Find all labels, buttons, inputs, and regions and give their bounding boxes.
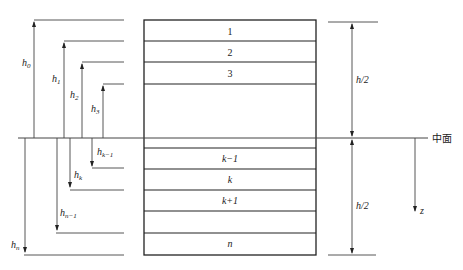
label-h1: h1 — [52, 73, 61, 86]
upper-height-dimensions — [34, 20, 124, 138]
z-axis-label: z — [419, 205, 424, 216]
label-h-k: hk — [74, 169, 83, 182]
label-h3: h3 — [91, 103, 100, 116]
label-h0: h0 — [22, 57, 31, 70]
layer-label-1: 1 — [228, 26, 233, 37]
label-h-k-minus-1: hk−1 — [97, 146, 113, 159]
layer-label-2: 2 — [228, 47, 233, 58]
laminate-diagram: 1 2 3 k−1 k k+1 n 中面 h0 h1 h2 — [0, 0, 463, 270]
layer-label-3: 3 — [228, 68, 233, 79]
layer-label-k: k — [228, 174, 233, 185]
layer-label-n: n — [228, 238, 233, 249]
label-half-thickness-top: h/2 — [356, 74, 369, 85]
layer-label-k-minus-1: k−1 — [222, 153, 238, 164]
label-h2: h2 — [70, 89, 79, 102]
layer-label-k-plus-1: k+1 — [222, 195, 238, 206]
midplane-label: 中面 — [432, 132, 452, 144]
label-half-thickness-bottom: h/2 — [356, 200, 369, 211]
label-h-n-minus-1: hn−1 — [60, 207, 77, 220]
label-h-n: hn — [11, 239, 20, 252]
